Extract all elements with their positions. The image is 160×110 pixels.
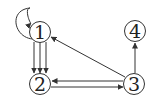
node-2-label: 2 (34, 73, 46, 95)
node-1-label: 1 (34, 21, 46, 43)
directed-graph: 1 2 3 4 (0, 0, 160, 110)
node-1: 1 (30, 21, 51, 43)
node-2: 2 (30, 73, 51, 95)
node-4-label: 4 (129, 20, 141, 42)
edge-3-to-1 (51, 37, 125, 77)
node-4: 4 (125, 20, 146, 42)
node-3-label: 3 (128, 73, 140, 95)
node-3: 3 (124, 73, 145, 95)
